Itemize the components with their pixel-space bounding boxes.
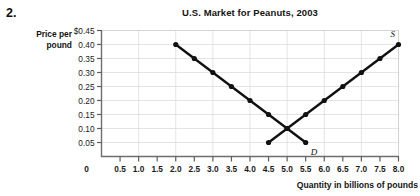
axis-ticks bbox=[97, 31, 399, 162]
data-point-marker bbox=[210, 70, 215, 75]
y-tick-labels: 0.050.100.150.200.250.300.350.40$0.45 bbox=[74, 26, 95, 148]
x-tick-label: 6.5 bbox=[337, 164, 349, 174]
x-tick-label: 5.5 bbox=[300, 164, 312, 174]
origin-label: 0 bbox=[84, 164, 89, 174]
y-tick-label: 0.05 bbox=[78, 138, 95, 148]
x-tick-label: 0.5 bbox=[114, 164, 126, 174]
data-point-marker bbox=[340, 84, 345, 89]
data-point-marker bbox=[377, 56, 382, 61]
data-point-marker bbox=[322, 98, 327, 103]
curve-labels: SD bbox=[310, 29, 396, 157]
x-tick-label: 3.5 bbox=[226, 164, 238, 174]
data-point-marker bbox=[173, 42, 178, 47]
x-tick-label: 2.0 bbox=[170, 164, 182, 174]
data-point-marker bbox=[247, 98, 252, 103]
y-tick-label: 0.30 bbox=[78, 68, 95, 78]
y-tick-label: 0.25 bbox=[78, 82, 95, 92]
x-tick-label: 8.0 bbox=[393, 164, 405, 174]
data-point-marker bbox=[229, 84, 234, 89]
x-axis-title: Quantity in billions of pounds bbox=[180, 180, 418, 190]
x-tick-label: 7.0 bbox=[356, 164, 368, 174]
y-tick-label: 0.15 bbox=[78, 110, 95, 120]
y-tick-label: 0.35 bbox=[78, 54, 95, 64]
gridlines bbox=[102, 31, 399, 157]
y-tick-label: 0.40 bbox=[78, 40, 95, 50]
economics-figure: 2. U.S. Market for Peanuts, 2003 Price p… bbox=[0, 0, 420, 196]
x-tick-label: 2.5 bbox=[189, 164, 201, 174]
data-point-marker bbox=[359, 70, 364, 75]
x-tick-label: 1.0 bbox=[133, 164, 145, 174]
supply-curve-label: S bbox=[391, 29, 396, 39]
y-tick-label: 0.20 bbox=[78, 96, 95, 106]
x-tick-label: 4.5 bbox=[263, 164, 275, 174]
x-tick-label: 6.0 bbox=[318, 164, 330, 174]
x-tick-labels: 00.51.01.52.02.53.03.54.04.55.05.56.06.5… bbox=[84, 164, 404, 174]
data-point-marker bbox=[396, 42, 401, 47]
data-point-marker bbox=[266, 112, 271, 117]
x-tick-label: 7.5 bbox=[374, 164, 386, 174]
y-tick-label: $0.45 bbox=[74, 26, 95, 36]
x-tick-label: 4.0 bbox=[244, 164, 256, 174]
data-point-marker bbox=[266, 140, 271, 145]
data-point-marker bbox=[285, 126, 290, 131]
y-tick-label: 0.10 bbox=[78, 124, 95, 134]
data-point-marker bbox=[192, 56, 197, 61]
chart-plot-area: 0.050.100.150.200.250.300.350.40$0.45 00… bbox=[0, 0, 420, 196]
data-point-marker bbox=[303, 112, 308, 117]
x-tick-label: 1.5 bbox=[151, 164, 163, 174]
data-point-marker bbox=[303, 140, 308, 145]
x-tick-label: 5.0 bbox=[281, 164, 293, 174]
x-tick-label: 3.0 bbox=[207, 164, 219, 174]
demand-curve-label: D bbox=[310, 147, 318, 157]
